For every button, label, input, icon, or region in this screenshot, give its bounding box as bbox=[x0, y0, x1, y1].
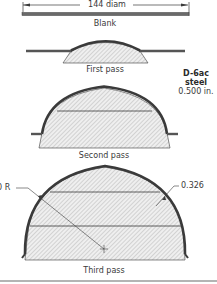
second-pass-die bbox=[39, 88, 170, 148]
second-pass-caption: Second pass bbox=[79, 152, 129, 160]
arrow-right-icon bbox=[181, 4, 188, 7]
arrow-left-icon bbox=[23, 4, 30, 7]
second-pass-view bbox=[31, 87, 178, 149]
material-grade: D-6ac bbox=[183, 70, 209, 78]
blank-dimension-label: 144 diam bbox=[88, 1, 126, 9]
first-pass-die bbox=[63, 43, 148, 64]
radius-label: 0 R bbox=[0, 184, 10, 192]
blank-caption: Blank bbox=[94, 20, 116, 28]
third-pass-view bbox=[16, 166, 188, 260]
flange-right bbox=[185, 254, 188, 258]
diagram-drawing bbox=[0, 0, 217, 284]
third-pass-caption: Third pass bbox=[83, 267, 124, 275]
forming-diagram: 144 diam Blank First pass D-6ac steel 0.… bbox=[0, 0, 217, 284]
flange-left bbox=[22, 254, 25, 258]
thickness-label: 0.326 bbox=[181, 182, 204, 190]
first-pass-view bbox=[26, 41, 185, 63]
blank-plate bbox=[22, 13, 189, 16]
third-pass-die bbox=[25, 167, 185, 260]
material-thickness: 0.500 in. bbox=[178, 88, 213, 96]
first-pass-caption: First pass bbox=[86, 66, 124, 74]
material-type: steel bbox=[185, 79, 207, 87]
